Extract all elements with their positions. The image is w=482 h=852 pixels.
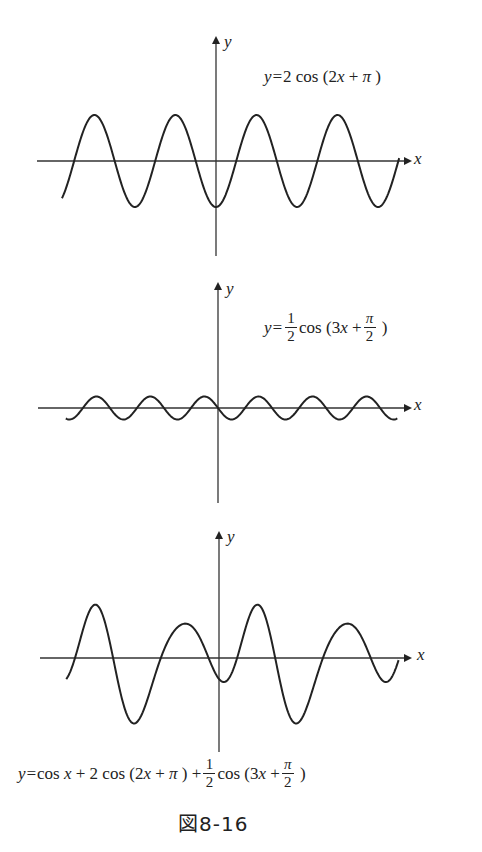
denominator: 2: [284, 775, 292, 790]
eq-paren: ): [382, 318, 388, 338]
eq-plus: +: [352, 318, 362, 338]
figure-plots: [0, 0, 482, 852]
fraction: 12: [203, 757, 215, 790]
numerator: 1: [206, 757, 214, 772]
fraction: π2: [282, 757, 294, 790]
eq-lhs: y=: [18, 764, 37, 784]
denominator: 2: [366, 329, 374, 344]
eq-fn: cos: [296, 67, 319, 87]
denominator: 2: [287, 329, 295, 344]
equation-graph-2: y= 12 cos (3x + π2 ): [264, 311, 387, 344]
eq-fn: cos: [37, 764, 60, 784]
eq-phase: π: [169, 764, 178, 784]
numerator: π: [366, 311, 374, 326]
eq-fn: cos: [217, 764, 240, 784]
eq-paren: ): [182, 764, 188, 784]
y-axis-label: y: [227, 527, 235, 547]
eq-lhs: y=: [264, 318, 283, 338]
eq-arg: (2: [129, 764, 143, 784]
graph-3: [40, 533, 410, 752]
eq-var: x: [340, 318, 348, 338]
figure-label: 図8-16: [178, 808, 248, 837]
fraction: 12: [285, 311, 297, 344]
eq-term: 2 cos: [90, 764, 125, 784]
eq-arg: 3: [332, 318, 341, 338]
eq-var: x: [258, 764, 266, 784]
eq-coef: 2: [283, 67, 292, 87]
eq-plus: +: [192, 764, 202, 784]
eq-arg: 2: [328, 67, 337, 87]
curve: [66, 605, 398, 724]
eq-lhs: y=: [264, 67, 283, 87]
equation-graph-1: y= 2 cos (2x + π ): [264, 67, 381, 87]
eq-plus: +: [76, 764, 86, 784]
x-axis-label: x: [414, 149, 422, 169]
eq-var: x: [143, 764, 151, 784]
fraction: π2: [364, 311, 376, 344]
denominator: 2: [206, 775, 214, 790]
eq-paren: ): [375, 67, 381, 87]
eq-var: x: [64, 764, 72, 784]
equation-graph-3: y= cos x + 2 cos (2x + π ) + 12 cos (3x …: [18, 757, 306, 790]
eq-plus: +: [155, 764, 165, 784]
eq-var: x: [337, 67, 345, 87]
numerator: 1: [287, 311, 295, 326]
eq-phase: π: [363, 67, 372, 87]
numerator: π: [284, 757, 292, 772]
eq-arg: (3: [244, 764, 258, 784]
eq-plus: +: [349, 67, 359, 87]
eq-plus: +: [270, 764, 280, 784]
eq-paren: ): [300, 764, 306, 784]
x-axis-label: x: [417, 645, 425, 665]
eq-fn: cos: [299, 318, 322, 338]
y-axis-label: y: [224, 32, 232, 52]
x-axis-label: x: [414, 395, 422, 415]
y-axis-label: y: [226, 279, 234, 299]
